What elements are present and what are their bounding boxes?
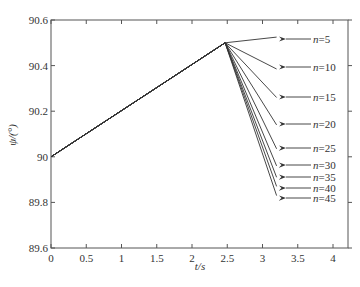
series-line-n-15 bbox=[51, 43, 277, 157]
data-series bbox=[51, 37, 277, 196]
plot-frame bbox=[51, 20, 348, 248]
x-axis-label: t/s bbox=[195, 260, 205, 272]
y-tick-label: 90.6 bbox=[29, 14, 49, 26]
series-line-n-35 bbox=[51, 43, 277, 178]
x-tick-label: 3.5 bbox=[291, 252, 305, 264]
series-annotation-label: n=10 bbox=[313, 61, 336, 73]
y-tick-label: 89.6 bbox=[29, 242, 49, 254]
figure-caption bbox=[60, 276, 360, 287]
y-tick-label: 90.2 bbox=[29, 105, 48, 117]
series-annotation-label: n=25 bbox=[313, 142, 336, 154]
series-annotation-label: n=45 bbox=[313, 192, 336, 204]
series-annotation-label: n=20 bbox=[313, 118, 336, 130]
x-tick-label: 2.5 bbox=[220, 252, 234, 264]
y-tick-label: 90 bbox=[37, 151, 49, 163]
y-axis-label: ψ/(°) bbox=[6, 124, 19, 146]
x-tick-label: 0.5 bbox=[79, 252, 93, 264]
x-tick-label: 3 bbox=[260, 252, 266, 264]
y-tick-label: 90.4 bbox=[29, 60, 49, 72]
series-annotation-label: n=30 bbox=[313, 159, 336, 171]
x-axis-ticks: 00.511.522.533.54 bbox=[48, 20, 336, 264]
series-annotations: n=5n=10n=15n=20n=25n=30n=35n=40n=45 bbox=[286, 33, 336, 204]
y-axis-ticks: 89.689.89090.290.490.6 bbox=[29, 14, 352, 254]
series-line-n-45 bbox=[51, 43, 277, 196]
x-tick-label: 0 bbox=[48, 252, 54, 264]
x-tick-label: 1.5 bbox=[150, 252, 164, 264]
series-line-n-20 bbox=[51, 43, 277, 157]
series-line-n-10 bbox=[51, 43, 277, 157]
x-tick-label: 4 bbox=[330, 252, 336, 264]
series-line-n-25 bbox=[51, 43, 277, 157]
x-tick-label: 1 bbox=[119, 252, 125, 264]
series-annotation-label: n=15 bbox=[313, 91, 336, 103]
axes-box bbox=[51, 20, 348, 248]
series-line-n-5 bbox=[51, 37, 277, 157]
series-annotation-label: n=5 bbox=[313, 33, 331, 45]
series-line-n-40 bbox=[51, 43, 277, 187]
line-chart: 00.511.522.533.54 89.689.89090.290.490.6… bbox=[0, 0, 360, 287]
y-tick-label: 89.8 bbox=[29, 196, 49, 208]
